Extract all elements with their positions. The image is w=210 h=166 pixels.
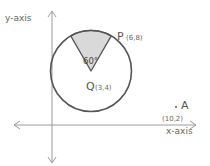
point-a-dot-icon — [175, 106, 177, 108]
center-q-coords: (3,4) — [95, 84, 112, 92]
point-p-coords: (6,8) — [126, 34, 143, 42]
y-axis-label: y-axis — [5, 13, 32, 23]
coordinate-diagram: y-axis x-axis 60° Q (3,4) P (6,8) A (10,… — [0, 0, 210, 166]
center-q-name: Q — [86, 80, 95, 93]
point-a-coords: (10,2) — [162, 115, 183, 123]
x-axis-label: x-axis — [166, 126, 193, 136]
sector-angle-label: 60° — [83, 56, 98, 66]
point-a-name: A — [181, 99, 189, 112]
point-p-name: P — [117, 30, 124, 43]
y-axis — [48, 11, 56, 163]
